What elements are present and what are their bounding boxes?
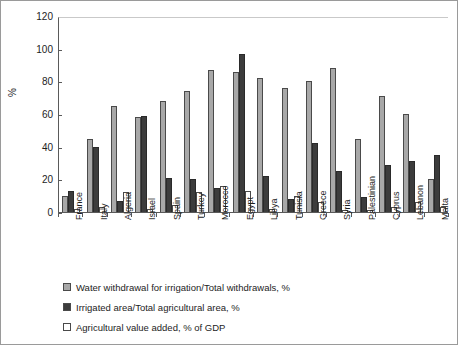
legend-label: Irrigated area/Total agricultural area, … [76,302,240,313]
x-axis-tick-label: Spain [172,197,182,220]
bar-group [181,18,205,212]
x-axis-tick-label: Tunisia [294,191,304,220]
bar-group [278,18,302,212]
x-axis-tick-label: Algeria [123,192,133,220]
chart-container: % 020406080100120 FranceItalyAlgeriaIsra… [0,0,458,345]
x-axis-tick-label: Lebanon [415,185,425,220]
y-axis-tick-label: 20 [27,175,53,185]
bar-group [230,18,254,212]
y-axis-tick-label: 120 [27,12,53,22]
x-axis-tick-label: Palestinian [367,176,377,220]
x-axis-tick-mark [58,213,59,217]
bar [111,106,117,212]
x-axis-tick-label: France [74,192,84,220]
x-axis-tick-label: Turkey [196,193,206,220]
plot-area [58,17,448,213]
x-axis-tick-label: Italy [99,203,109,220]
legend-item: Irrigated area/Total agricultural area, … [63,297,393,317]
x-axis-tick-label: Libya [269,198,279,220]
chart-legend: Water withdrawal for irrigation/Total wi… [63,277,393,337]
legend-swatch-icon [63,283,71,291]
bar-group [327,18,351,212]
x-axis-tick-label: Greece [318,190,328,220]
bar-group [83,18,107,212]
x-axis-tick-label: Syria [342,199,352,220]
y-axis-tick-label: 60 [27,110,53,120]
x-axis-tick-label: Cyprus [391,191,401,220]
x-axis-tick-label: Israel [147,198,157,220]
legend-item: Agricultural value added, % of GDP [63,317,393,337]
bar [239,54,245,212]
legend-item: Water withdrawal for irrigation/Total wi… [63,277,393,297]
legend-label: Water withdrawal for irrigation/Total wi… [76,282,290,293]
x-axis-tick-labels: FranceItalyAlgeriaIsraelSpainTurkeyMoroc… [58,218,448,276]
bar-group [108,18,132,212]
bar [434,155,440,212]
y-axis-tick-label: 100 [27,45,53,55]
bar-group [303,18,327,212]
x-axis-tick-label: Egypt [245,197,255,220]
legend-label: Agricultural value added, % of GDP [76,322,225,333]
bar-group [205,18,229,212]
x-axis-tick-label: Morocco [220,185,230,220]
y-axis-title: % [7,88,18,97]
bar [93,147,99,212]
x-axis-tick-label: Malta [440,198,450,220]
legend-swatch-icon [63,303,71,311]
legend-swatch-icon [63,323,71,331]
bar-group [376,18,400,212]
bar-group [254,18,278,212]
bar-group [132,18,156,212]
bar [282,88,288,212]
y-axis-tick-label: 80 [27,77,53,87]
y-axis-tick-label: 0 [27,208,53,218]
bar-group [400,18,424,212]
bar-group [59,18,83,212]
bar-group [425,18,449,212]
y-axis-tick-labels: 020406080100120 [23,17,53,213]
y-axis-tick-label: 40 [27,143,53,153]
bar-group [157,18,181,212]
